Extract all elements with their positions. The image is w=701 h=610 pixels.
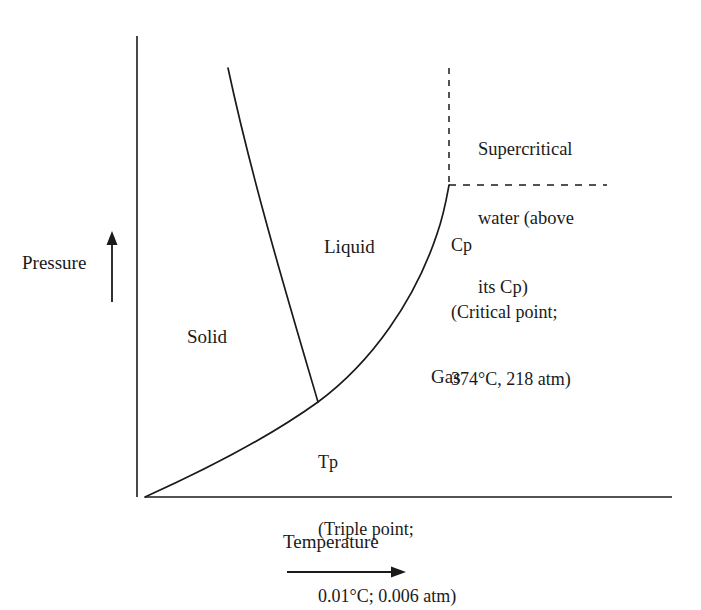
supercritical-line-3: its Cp) — [478, 276, 574, 299]
region-label-liquid: Liquid — [324, 235, 375, 259]
fusion-curve — [228, 68, 318, 402]
triple-point-descriptor: (Triple point; — [318, 518, 456, 540]
supercritical-region-annotation: Supercritical water (above its Cp) — [478, 92, 574, 344]
triple-point-name: Tp — [318, 451, 456, 473]
critical-point-values: 374°C, 218 atm) — [451, 368, 571, 390]
triple-point-values: 0.01°C; 0.006 atm) — [318, 585, 456, 607]
triple-point-annotation: Tp (Triple point; 0.01°C; 0.006 atm) — [318, 406, 456, 610]
region-label-solid: Solid — [187, 325, 227, 349]
y-axis-label: Pressure — [22, 251, 86, 275]
supercritical-line-1: Supercritical — [478, 138, 574, 161]
pressure-up-arrow-icon — [107, 231, 118, 302]
supercritical-line-2: water (above — [478, 207, 574, 230]
